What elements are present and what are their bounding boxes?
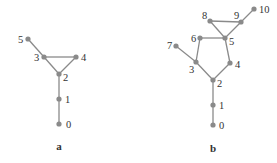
edge-2-3 [196,62,213,80]
node-7 [173,43,178,48]
edge-3-6 [196,38,200,62]
graph-a-labels: 012345 [18,34,87,130]
graph-b: 012345678910 b [167,4,270,154]
node-label-5: 5 [229,36,234,47]
node-label-1: 1 [219,100,224,111]
graph-b-labels: 012345678910 [167,4,270,131]
edge-3-7 [176,46,196,62]
node-5 [25,36,30,41]
node-5 [222,35,227,40]
node-label-4: 4 [235,59,241,70]
graph-b-nodes [173,6,256,127]
node-label-6: 6 [191,33,196,44]
node-label-2: 2 [217,78,222,89]
node-label-4: 4 [81,52,87,63]
edge-8-9 [210,21,241,22]
node-label-1: 1 [65,94,70,105]
node-10 [251,6,256,11]
node-label-0: 0 [66,119,71,130]
node-0 [56,121,61,126]
node-label-3: 3 [189,64,194,75]
node-label-9: 9 [234,10,239,21]
node-2 [56,71,61,76]
graph-a: 012345 a [18,34,87,152]
node-label-0: 0 [219,120,224,131]
node-0 [210,122,215,127]
node-4 [227,60,232,65]
node-label-10: 10 [259,4,270,15]
node-1 [210,102,215,107]
node-3 [41,54,46,59]
edge-2-3 [44,57,59,74]
node-4 [73,54,78,59]
graph-b-edges [176,9,254,125]
node-8 [207,18,212,23]
graph-a-nodes [25,36,78,126]
node-label-2: 2 [63,72,68,83]
graph-b-caption: b [210,142,216,154]
node-label-5: 5 [18,34,23,45]
node-2 [210,77,215,82]
graph-a-caption: a [56,140,62,152]
node-1 [56,96,61,101]
node-6 [197,35,202,40]
graph-diagram: 012345 a 012345678910 b [0,0,277,163]
node-label-8: 8 [202,10,207,21]
node-label-3: 3 [34,52,39,63]
edge-5-8 [210,21,225,38]
edge-9-10 [241,9,254,22]
node-label-7: 7 [167,40,172,51]
